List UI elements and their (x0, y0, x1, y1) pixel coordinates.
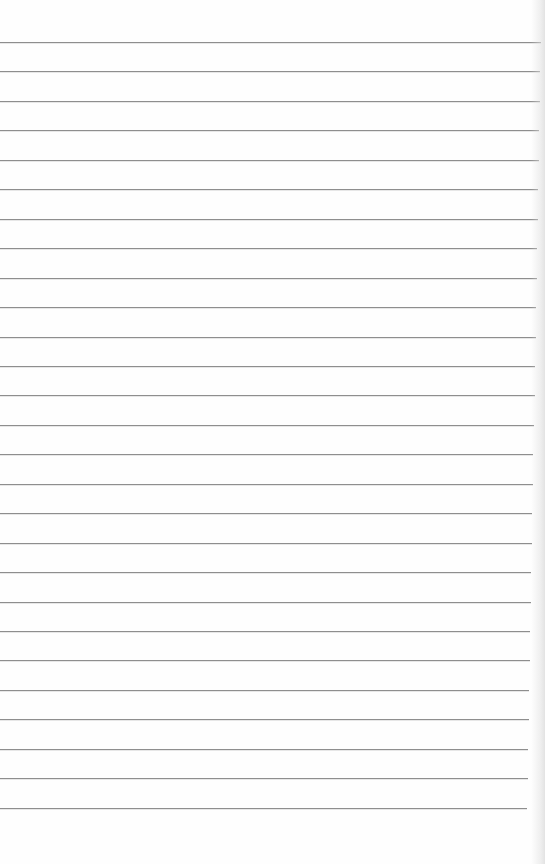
ruled-line (0, 690, 529, 691)
ruled-line (0, 454, 533, 455)
ruled-line (0, 749, 528, 750)
ruled-line (0, 189, 538, 190)
ruled-line (0, 42, 541, 43)
ruled-line (0, 484, 533, 485)
ruled-line (0, 366, 535, 367)
lined-paper-page (0, 0, 545, 864)
ruled-line (0, 219, 538, 220)
ruled-line (0, 337, 536, 338)
ruled-line (0, 71, 540, 72)
ruled-line (0, 778, 528, 779)
ruled-line (0, 278, 537, 279)
ruled-line (0, 130, 539, 131)
ruled-line (0, 101, 540, 102)
ruled-line (0, 631, 530, 632)
ruled-line (0, 602, 531, 603)
ruled-line (0, 513, 532, 514)
ruled-line (0, 248, 537, 249)
ruled-line (0, 307, 536, 308)
ruled-line (0, 425, 534, 426)
ruled-line (0, 719, 529, 720)
ruled-line (0, 543, 532, 544)
ruled-line (0, 395, 535, 396)
ruled-line (0, 808, 527, 809)
ruled-line (0, 160, 539, 161)
ruled-line (0, 572, 531, 573)
ruled-line (0, 660, 530, 661)
